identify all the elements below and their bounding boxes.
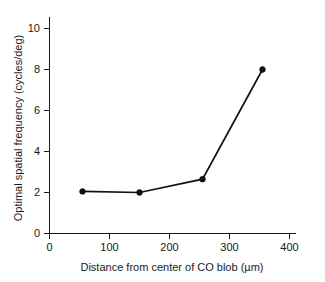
data-point (137, 190, 143, 196)
y-axis-title: Optimal spatial frequency (cycles/deg) (12, 35, 24, 221)
figure-container: 0 2 4 6 8 10 0 100 200 300 400 Distance … (0, 0, 325, 282)
x-tick-label: 400 (280, 241, 298, 253)
x-tick-label: 300 (220, 241, 238, 253)
y-tick-label: 8 (34, 63, 40, 75)
y-tick-label: 4 (34, 145, 40, 157)
data-point (260, 67, 266, 73)
y-tick-label: 6 (34, 104, 40, 116)
chart-background (0, 0, 325, 282)
x-tick-label: 200 (160, 241, 178, 253)
data-point (80, 189, 86, 195)
x-tick-label: 100 (100, 241, 118, 253)
x-tick-label: 0 (46, 241, 52, 253)
y-tick-label: 2 (34, 186, 40, 198)
x-axis-title: Distance from center of CO blob (µm) (80, 261, 263, 273)
y-tick-label: 0 (34, 227, 40, 239)
y-tick-label: 10 (28, 22, 40, 34)
line-chart: 0 2 4 6 8 10 0 100 200 300 400 Distance … (0, 0, 325, 282)
data-point (200, 176, 206, 182)
